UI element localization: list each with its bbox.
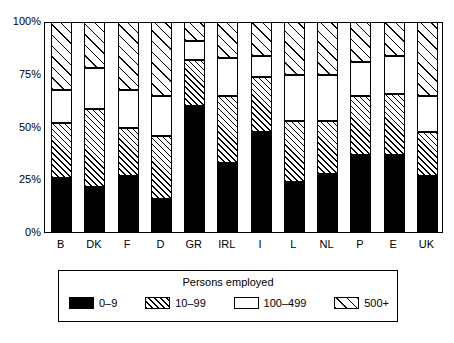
y-tick-label: 75% — [19, 69, 41, 80]
y-tick-label: 25% — [19, 174, 41, 185]
legend-item-0: 0–9 — [69, 297, 117, 309]
bar-segment-dk-0_9 — [84, 187, 105, 233]
bar-segment-l-0_9 — [284, 182, 305, 233]
x-tick-label-uk: UK — [410, 238, 443, 250]
bar-segment-b-100_499 — [51, 90, 72, 124]
bar-segment-b-10_99 — [51, 123, 72, 178]
bar-gr — [184, 21, 205, 232]
bar-segment-dk-500+ — [84, 22, 105, 68]
bar-segment-nl-100_499 — [317, 75, 338, 121]
legend-item-1: 10–99 — [145, 297, 206, 309]
legend-item-label: 100–499 — [264, 297, 307, 309]
bar-segment-e-100_499 — [384, 56, 405, 94]
x-tick-label-b: B — [44, 238, 77, 250]
bar-segment-i-500+ — [251, 22, 272, 56]
bar-uk — [417, 21, 438, 232]
bar-segment-l-10_99 — [284, 121, 305, 182]
bar-segment-gr-500+ — [184, 22, 205, 41]
x-tick-label-gr: GR — [177, 238, 210, 250]
legend-items: 0–910–99100–499500+ — [69, 297, 389, 309]
y-axis: 0%25%50%75%100% — [0, 0, 41, 256]
bar-segment-irl-0_9 — [217, 163, 238, 233]
bar-segment-uk-10_99 — [417, 132, 438, 176]
bar-segment-dk-100_499 — [84, 68, 105, 108]
bar-segment-f-500+ — [118, 22, 139, 90]
bar-segment-uk-500+ — [417, 22, 438, 96]
bar-p — [350, 21, 371, 232]
x-tick-label-l: L — [277, 238, 310, 250]
bar-segment-l-100_499 — [284, 75, 305, 121]
bar-segment-i-0_9 — [251, 132, 272, 233]
x-tick-label-d: D — [144, 238, 177, 250]
legend-item-label: 10–99 — [175, 297, 206, 309]
bar-segment-e-10_99 — [384, 94, 405, 155]
bar-segment-f-10_99 — [118, 128, 139, 177]
bar-segment-p-10_99 — [350, 96, 371, 155]
bar-e — [384, 21, 405, 232]
y-tick-label: 0% — [25, 227, 41, 238]
bar-segment-d-0_9 — [151, 199, 172, 233]
y-tick-label: 50% — [19, 122, 41, 133]
bar-segment-p-500+ — [350, 22, 371, 62]
legend-item-2: 100–499 — [234, 297, 307, 309]
legend-swatch-dense-hatch — [145, 297, 170, 309]
x-tick-label-p: P — [343, 238, 376, 250]
bar-segment-b-0_9 — [51, 178, 72, 233]
x-tick-label-irl: IRL — [210, 238, 243, 250]
legend-swatch-white — [234, 297, 259, 309]
bar-segment-uk-100_499 — [417, 96, 438, 132]
legend-item-3: 500+ — [334, 297, 389, 309]
bar-segment-gr-100_499 — [184, 41, 205, 60]
bar-l — [284, 21, 305, 232]
x-tick-label-dk: DK — [77, 238, 110, 250]
bar-dk — [84, 21, 105, 232]
bar-segment-i-100_499 — [251, 56, 272, 77]
bar-segment-irl-500+ — [217, 22, 238, 58]
bar-i — [251, 21, 272, 232]
legend-title: Persons employed — [59, 276, 397, 289]
bar-segment-dk-10_99 — [84, 109, 105, 187]
legend-item-label: 500+ — [364, 297, 389, 309]
bar-segment-irl-100_499 — [217, 58, 238, 96]
bar-segment-nl-0_9 — [317, 174, 338, 233]
bar-segment-f-0_9 — [118, 176, 139, 233]
y-tick-label: 100% — [13, 16, 41, 27]
bar-segment-gr-10_99 — [184, 60, 205, 106]
bar-segment-d-100_499 — [151, 96, 172, 136]
x-tick-label-i: I — [244, 238, 277, 250]
legend-item-label: 0–9 — [99, 297, 117, 309]
plot-frame — [44, 22, 443, 233]
bar-segment-d-500+ — [151, 22, 172, 96]
chart-root: 0%25%50%75%100% BDKFDGRIRLILNLPEUK Perso… — [0, 0, 454, 343]
bar-irl — [217, 21, 238, 232]
bar-f — [118, 21, 139, 232]
bar-d — [151, 21, 172, 232]
bar-segment-i-10_99 — [251, 77, 272, 132]
bar-segment-irl-10_99 — [217, 96, 238, 164]
bar-segment-gr-0_9 — [184, 106, 205, 233]
x-tick-label-f: F — [111, 238, 144, 250]
bar-segment-b-500+ — [51, 22, 72, 90]
bar-segment-nl-10_99 — [317, 121, 338, 174]
bar-segment-d-10_99 — [151, 136, 172, 199]
bar-segment-l-500+ — [284, 22, 305, 75]
bar-segment-p-0_9 — [350, 155, 371, 233]
bar-segment-uk-0_9 — [417, 176, 438, 233]
bar-segment-p-100_499 — [350, 62, 371, 96]
bar-nl — [317, 21, 338, 232]
bar-segment-e-0_9 — [384, 155, 405, 233]
bar-segment-f-100_499 — [118, 90, 139, 128]
bar-segment-nl-500+ — [317, 22, 338, 75]
x-tick-label-nl: NL — [310, 238, 343, 250]
bar-segment-e-500+ — [384, 22, 405, 56]
bar-b — [51, 21, 72, 232]
x-tick-label-e: E — [377, 238, 410, 250]
legend: Persons employed 0–910–99100–499500+ — [58, 270, 398, 322]
legend-swatch-sparse-hatch — [334, 297, 359, 309]
stacked-bar-chart: 0%25%50%75%100% BDKFDGRIRLILNLPEUK — [0, 0, 454, 256]
legend-swatch-black — [69, 297, 94, 309]
